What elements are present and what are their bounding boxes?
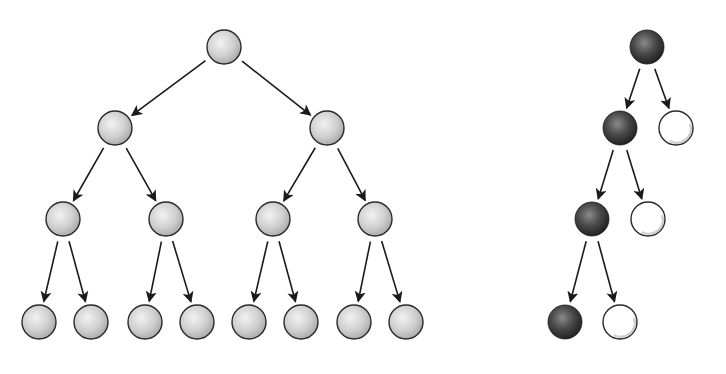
- dark-node-d3: [548, 305, 582, 339]
- edge-arrow-n3-n7: [44, 241, 58, 301]
- gray-node-n14: [389, 305, 423, 339]
- white-node-w1: [659, 111, 693, 145]
- edges-layer: [44, 61, 669, 302]
- dark-node-d2: [575, 202, 609, 236]
- gray-node-n7: [22, 305, 56, 339]
- edge-arrow-n5-n11: [254, 241, 268, 301]
- gray-node-n5: [256, 202, 290, 236]
- gray-node-n1: [98, 111, 132, 145]
- gray-node-n3: [46, 202, 80, 236]
- degenerate-tree: [548, 30, 693, 339]
- gray-node-n10: [180, 305, 214, 339]
- edge-arrow-n3-n8: [69, 241, 85, 302]
- tree-diagram: [0, 0, 726, 374]
- dark-node-d1: [603, 111, 637, 145]
- dark-node-d0: [630, 30, 664, 64]
- edge-arrow-n1-n3: [73, 148, 103, 201]
- edge-arrow-n6-n14: [382, 241, 400, 302]
- edge-arrow-n5-n12: [279, 241, 295, 302]
- gray-node-n6: [358, 202, 392, 236]
- gray-node-n0: [207, 30, 241, 64]
- white-node-w2: [631, 202, 665, 236]
- gray-node-n9: [128, 305, 162, 339]
- edge-arrow-d1-w2: [627, 150, 642, 199]
- edge-arrow-n0-n2: [242, 61, 310, 115]
- white-node-w3: [603, 305, 637, 339]
- edge-arrow-n4-n10: [173, 241, 191, 302]
- edge-arrow-n6-n13: [358, 242, 370, 302]
- edge-arrow-n2-n6: [338, 148, 365, 200]
- gray-node-n8: [74, 305, 108, 339]
- edge-arrow-n4-n9: [149, 242, 161, 302]
- gray-node-n11: [232, 305, 266, 339]
- edge-arrow-n1-n4: [126, 148, 155, 201]
- edge-arrow-n2-n5: [284, 148, 316, 201]
- edge-arrow-d0-d1: [627, 69, 640, 108]
- gray-node-n12: [284, 305, 318, 339]
- edge-arrow-n0-n1: [132, 61, 206, 116]
- gray-node-n4: [149, 202, 183, 236]
- edge-arrow-d2-d3: [570, 241, 586, 301]
- edge-arrow-d0-w1: [655, 69, 669, 109]
- gray-node-n13: [337, 305, 371, 339]
- gray-node-n2: [310, 111, 344, 145]
- edge-arrow-d1-d2: [598, 150, 613, 199]
- edge-arrow-d2-w3: [598, 241, 614, 302]
